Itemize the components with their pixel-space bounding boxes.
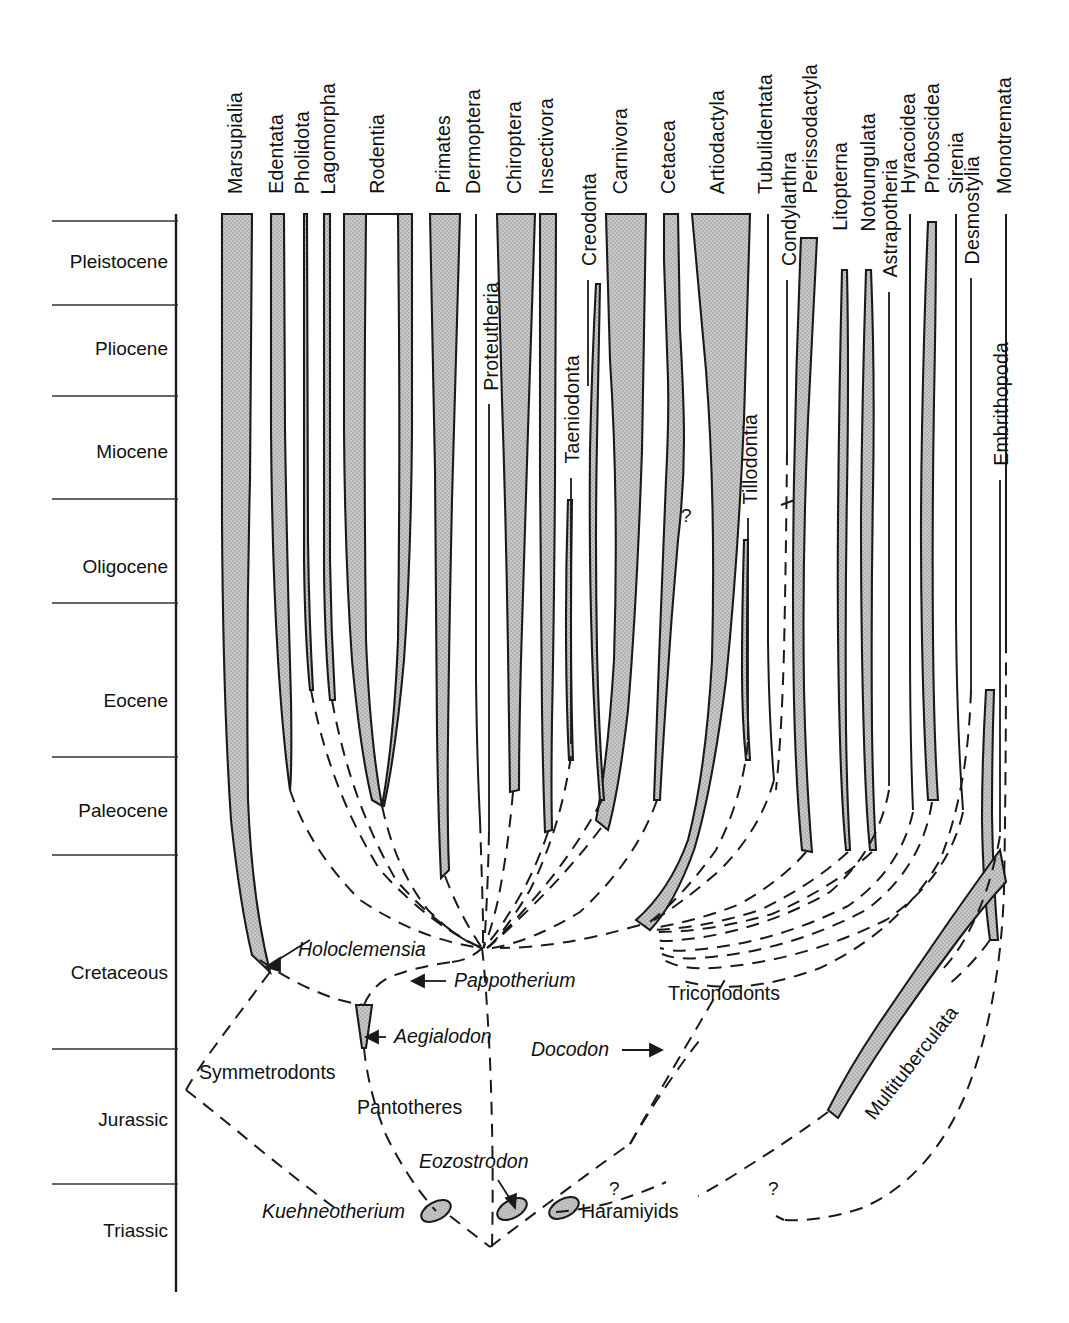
spindle-rodentia	[344, 214, 382, 806]
branch-pappo-left	[452, 948, 482, 962]
branch-monotremata	[784, 640, 1006, 1220]
spindle-chiroptera	[497, 214, 535, 792]
branch-taeniodonta	[488, 756, 571, 948]
branch-embrithopoda-down	[948, 940, 990, 985]
spindle-proboscidea	[921, 222, 938, 800]
taxon-label-artiodactyla: Artiodactyla	[708, 90, 728, 194]
uncertainty-marker-1: ?	[609, 1178, 620, 1200]
spindle-aegialodon	[356, 1005, 372, 1048]
arrow-docodon	[622, 1044, 662, 1056]
branch-pappo-stem	[482, 948, 493, 1247]
branch-insectivora	[483, 832, 548, 948]
taxon-label-symmetrodonts: Symmetrodonts	[199, 1063, 336, 1083]
taxon-label-kuehneotherium: Kuehneotherium	[262, 1202, 405, 1222]
spindle-edentata	[271, 214, 291, 790]
branch-artiodactyla-main	[500, 925, 640, 948]
spindle-marsupialia	[222, 214, 270, 972]
branch-proteutheria	[484, 832, 489, 948]
taxon-label-astrapotheria: Astrapotheria	[881, 159, 901, 278]
taxon-label-primates: Primates	[434, 115, 454, 194]
taxon-label-proteutheria: Proteutheria	[482, 282, 502, 391]
line-hyracoidea	[910, 214, 913, 810]
spindle-lagomorpha	[324, 214, 335, 700]
taxon-label-pholidota: Pholidota	[293, 111, 313, 194]
branch-sirenia	[664, 812, 963, 968]
taxon-label-litopterna: Litopterna	[831, 142, 851, 231]
branch-cetacea	[492, 800, 657, 948]
taxon-label-tillodontia: Tillodontia	[741, 414, 761, 504]
taxon-label-desmostylia: Desmostylia	[963, 156, 983, 264]
arrow-pappotherium	[412, 975, 446, 987]
taxon-label-creodonta: Creodonta	[580, 173, 600, 266]
spindle-taeniodonta	[566, 500, 573, 760]
spindle-creodonta	[590, 284, 604, 800]
era-label-pleistocene: Pleistocene	[52, 251, 168, 273]
taxon-label-cetacea: Cetacea	[659, 120, 679, 194]
taxon-label-chiroptera: Chiroptera	[505, 101, 525, 194]
figure-canvas: Pleistocene Pliocene Miocene Oligocene E…	[0, 0, 1069, 1323]
taxon-label-eozostrodon: Eozostrodon	[419, 1152, 529, 1172]
branch-edentata	[290, 790, 482, 948]
spindle-rodentia-right	[366, 214, 412, 806]
marker-haramiyids	[546, 1193, 583, 1224]
spindle-cetacea	[654, 214, 684, 800]
branch-dermoptera	[480, 820, 483, 948]
taxon-label-proboscidea: Proboscidea	[923, 83, 943, 194]
spindle-litopterna	[838, 270, 850, 850]
branch-pantotheres-stem	[364, 1048, 436, 1211]
taxon-label-notoungulata: Notoungulata	[859, 113, 879, 231]
taxon-label-tubulidentata: Tubulidentata	[756, 74, 776, 194]
spindle-pholidota	[304, 214, 313, 690]
era-label-cretaceous: Cretaceous	[52, 962, 168, 984]
taxon-label-pappotherium: Pappotherium	[454, 971, 575, 991]
branch-monotremata-q	[776, 1216, 784, 1220]
taxon-label-edentata: Edentata	[267, 114, 287, 194]
taxon-label-insectivora: Insectivora	[537, 98, 557, 195]
taxon-label-hyracoidea: Hyracoidea	[899, 93, 919, 194]
taxon-label-carnivora: Carnivora	[611, 108, 631, 194]
era-label-miocene: Miocene	[52, 441, 168, 463]
branch-primates	[445, 876, 482, 948]
era-label-triassic: Triassic	[52, 1220, 168, 1242]
spindle-multituberculata	[828, 850, 1006, 1118]
branch-rodentia	[382, 806, 482, 948]
taxon-label-holoclemensia: Holoclemensia	[298, 940, 426, 960]
branch-multituberculata	[698, 1112, 828, 1196]
spindle-notoungulata	[861, 270, 876, 850]
taxon-label-taeniodonta: Taeniodonta	[563, 355, 583, 463]
era-label-pliocene: Pliocene	[52, 338, 168, 360]
spindle-insectivora	[540, 214, 556, 832]
taxon-label-aegialodon: Aegialodon	[394, 1027, 492, 1047]
taxon-label-dermoptera: Dermoptera	[464, 89, 484, 194]
uncertainty-marker-2: ?	[768, 1178, 779, 1200]
taxon-label-perissodactyla: Perissodactyla	[801, 64, 821, 194]
uncertainty-marker-3: ?	[681, 505, 692, 527]
spindle-primates	[430, 214, 460, 878]
taxon-label-docodon: Docodon	[531, 1040, 609, 1060]
era-label-paleocene: Paleocene	[52, 800, 168, 822]
branch-proboscidea	[662, 802, 932, 959]
taxon-label-marsupialia: Marsupialia	[226, 92, 246, 194]
era-label-jurassic: Jurassic	[52, 1109, 168, 1131]
branch-kuehn-to-root	[450, 1216, 490, 1247]
taxon-label-rodentia: Rodentia	[368, 114, 388, 194]
branch-docodon	[630, 1040, 700, 1144]
era-label-eocene: Eocene	[52, 690, 168, 712]
branch-symmetrodonts	[186, 1090, 340, 1212]
line-tubulidentata	[768, 214, 774, 780]
taxon-label-haramiyids: Haramiyids	[581, 1202, 679, 1222]
branch-aegialodon-up	[364, 962, 452, 1005]
taxon-label-monotremata: Monotremata	[995, 77, 1015, 194]
spindle-carnivora	[596, 214, 646, 830]
taxon-label-lagomorpha: Lagomorpha	[319, 83, 339, 195]
taxon-label-triconodonts: Triconodonts	[668, 984, 780, 1004]
spindle-artiodactyla	[636, 214, 750, 930]
line-sirenia	[956, 214, 963, 810]
era-label-oligocene: Oligocene	[52, 556, 168, 578]
taxon-label-condylarthra: Condylarthra	[780, 152, 800, 266]
taxon-label-embrithopoda: Embrithopoda	[992, 342, 1012, 466]
spindle-perissodactyla	[793, 238, 817, 852]
taxon-label-pantotheres: Pantotheres	[357, 1098, 462, 1118]
